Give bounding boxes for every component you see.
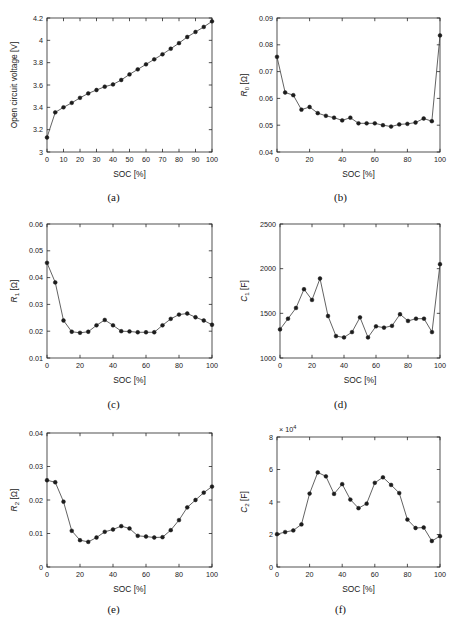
y-tick-label: 3.6	[33, 81, 43, 90]
x-tick-label: 80	[403, 570, 411, 579]
y-tick-label: 0.02	[29, 327, 43, 336]
data-marker	[103, 318, 107, 322]
subplot-a: 010203040506070809010033.23.43.63.844.2S…	[0, 0, 227, 210]
x-tick-label: 0	[278, 361, 282, 370]
data-marker	[177, 313, 181, 317]
data-marker	[169, 47, 173, 51]
data-marker	[340, 118, 344, 122]
data-marker	[62, 319, 66, 323]
data-marker	[185, 505, 189, 509]
data-marker	[70, 529, 74, 533]
subplot-f-caption: (f)	[227, 603, 454, 615]
y-tick-label: 8	[269, 433, 273, 442]
y-tick-label: 0.02	[29, 496, 43, 505]
y-axis-label: R0 [Ω]	[239, 74, 250, 97]
data-marker	[348, 116, 352, 120]
data-marker	[398, 312, 402, 316]
x-tick-label: 100	[434, 570, 446, 579]
y-axis-label: C2 [F]	[239, 491, 250, 513]
y-tick-label: 0.05	[29, 246, 43, 255]
subplot-d-caption: (d)	[227, 398, 454, 410]
y-tick-label: 3.8	[33, 58, 43, 67]
data-marker	[70, 101, 74, 105]
x-tick-label: 60	[371, 155, 379, 164]
y-axis-label: C1 [F]	[239, 280, 250, 302]
subplot-a-canvas: 010203040506070809010033.23.43.63.844.2S…	[0, 0, 227, 210]
data-marker	[62, 105, 66, 109]
data-marker	[438, 534, 442, 538]
data-marker	[169, 528, 173, 532]
data-marker	[128, 330, 132, 334]
x-tick-label: 80	[403, 155, 411, 164]
data-marker	[111, 83, 115, 87]
y-tick-label: 0.07	[259, 67, 273, 76]
subplot-b-caption: (b)	[227, 191, 454, 203]
data-marker	[430, 539, 434, 543]
data-line	[47, 263, 212, 333]
data-marker	[45, 136, 49, 140]
data-marker	[119, 329, 123, 333]
x-tick-label: 60	[372, 361, 380, 370]
data-marker	[348, 498, 352, 502]
data-marker	[414, 526, 418, 530]
data-marker	[438, 262, 442, 266]
x-axis-label: SOC [%]	[113, 375, 146, 385]
data-marker	[300, 523, 304, 527]
y-tick-label: 6	[269, 465, 273, 474]
y-tick-label: 0.01	[29, 354, 43, 363]
data-marker	[136, 67, 140, 71]
x-tick-label: 20	[306, 570, 314, 579]
data-marker	[430, 119, 434, 123]
data-marker	[397, 123, 401, 127]
data-marker	[406, 319, 410, 323]
subplot-c: 0204060801000.010.020.030.040.050.06SOC …	[0, 210, 227, 415]
x-tick-label: 10	[60, 155, 68, 164]
data-marker	[86, 540, 90, 544]
y-tick-label: 0	[269, 563, 273, 572]
data-marker	[302, 287, 306, 291]
data-line	[277, 35, 440, 126]
data-marker	[45, 261, 49, 265]
data-marker	[177, 41, 181, 45]
data-marker	[310, 298, 314, 302]
data-marker	[53, 281, 57, 285]
data-marker	[136, 534, 140, 538]
data-marker	[177, 518, 181, 522]
data-marker	[381, 475, 385, 479]
y-axis-label: R1 [Ω]	[9, 280, 20, 303]
subplot-c-canvas: 0204060801000.010.020.030.040.050.06SOC …	[0, 210, 227, 415]
data-marker	[365, 121, 369, 125]
x-tick-label: 40	[109, 361, 117, 370]
data-marker	[161, 535, 165, 539]
y-tick-label: 0.06	[259, 94, 273, 103]
data-marker	[62, 500, 66, 504]
x-tick-label: 20	[76, 361, 84, 370]
axis-exponent-label: × 104	[279, 424, 296, 434]
x-tick-label: 20	[308, 361, 316, 370]
data-marker	[210, 323, 214, 327]
plot-box	[277, 437, 440, 567]
y-tick-label: 0.08	[259, 40, 273, 49]
x-axis-label: SOC [%]	[344, 375, 377, 385]
y-tick-label: 3	[39, 148, 43, 157]
y-tick-label: 4	[39, 36, 43, 45]
x-tick-label: 80	[175, 361, 183, 370]
data-marker	[326, 314, 330, 318]
data-marker	[389, 125, 393, 129]
y-tick-label: 2500	[260, 220, 276, 229]
data-marker	[144, 330, 148, 334]
data-marker	[275, 55, 279, 59]
data-marker	[291, 529, 295, 533]
data-marker	[414, 121, 418, 125]
data-marker	[128, 527, 132, 531]
data-marker	[390, 324, 394, 328]
subplot-b: 0204060801000.040.050.060.070.080.09SOC …	[227, 0, 454, 210]
y-tick-label: 0.03	[29, 462, 43, 471]
data-marker	[95, 536, 99, 540]
data-marker	[144, 62, 148, 66]
data-marker	[185, 312, 189, 316]
x-tick-label: 20	[306, 155, 314, 164]
data-marker	[291, 93, 295, 97]
data-marker	[53, 110, 57, 114]
data-marker	[194, 30, 198, 34]
